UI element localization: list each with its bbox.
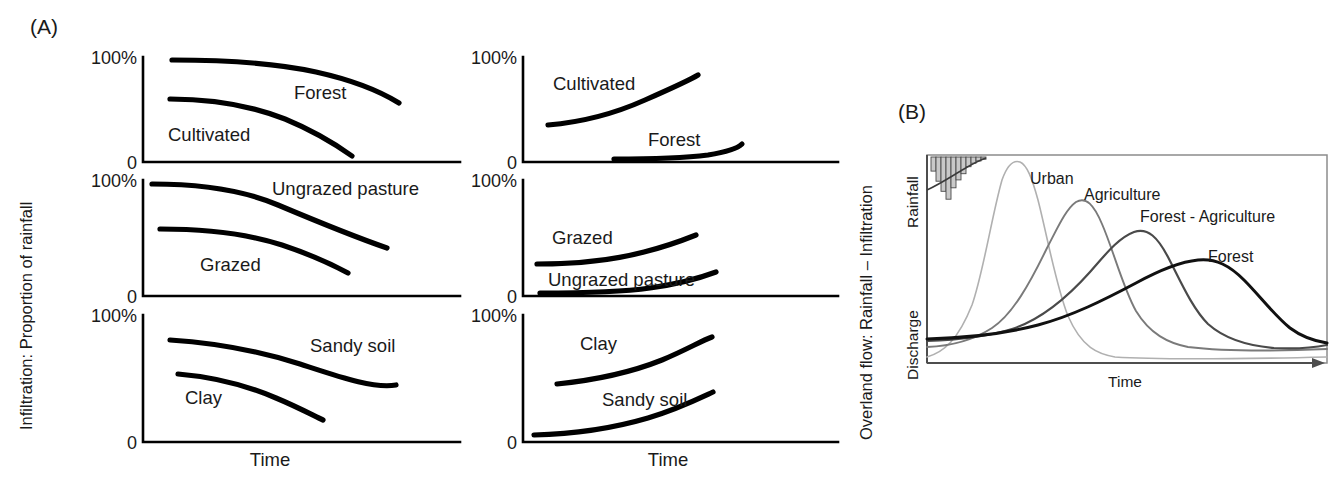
curve-label-cultivated: Cultivated bbox=[168, 124, 250, 145]
subplot-overland-grazed-pasture: 100% 0 Grazed Ungrazed pasture bbox=[471, 171, 838, 307]
curve-label-ungrazed-pasture: Ungrazed pasture bbox=[548, 269, 695, 290]
subplot-infiltration-forest-cultivated: 100% 0 Forest Cultivated bbox=[91, 48, 460, 173]
panel-b-letter: (B) bbox=[898, 100, 926, 123]
axes-spine bbox=[143, 315, 460, 442]
figure-root: (A) Infiltration: Proportion of rainfall… bbox=[0, 0, 1342, 490]
subplot-infiltration-sandy-clay: 100% 0 Sandy soil Clay Time bbox=[91, 306, 460, 470]
x-axis-arrow-icon bbox=[1312, 358, 1325, 368]
subplot-infiltration-pasture-grazed: 100% 0 Ungrazed pasture Grazed bbox=[91, 171, 460, 307]
ytick-bottom: 0 bbox=[507, 433, 517, 453]
curve-label-forest: Forest bbox=[648, 129, 700, 150]
panel-b-rainfall-label: Rainfall bbox=[904, 176, 921, 228]
curve-label-ungrazed-pasture: Ungrazed pasture bbox=[272, 178, 419, 199]
ytick-top: 100% bbox=[91, 171, 137, 191]
panel-a: (A) Infiltration: Proportion of rainfall… bbox=[17, 15, 875, 470]
xlabel-time: Time bbox=[648, 449, 688, 470]
ytick-bottom: 0 bbox=[127, 153, 137, 173]
ytick-bottom: 0 bbox=[127, 433, 137, 453]
panel-a-left-ylabel: Infiltration: Proportion of rainfall bbox=[17, 202, 35, 430]
curve-label-grazed: Grazed bbox=[552, 227, 613, 248]
curve-forest bbox=[172, 60, 399, 103]
curve-label-sandy-soil: Sandy soil bbox=[310, 335, 395, 356]
subplot-overland-forest-cultivated: 100% 0 Cultivated Forest bbox=[471, 48, 838, 173]
curve-label-clay: Clay bbox=[185, 387, 223, 408]
ytick-top: 100% bbox=[471, 171, 517, 191]
panel-b: (B) Rainfall Discharge bbox=[898, 100, 1327, 390]
ytick-top: 100% bbox=[91, 306, 137, 326]
panel-b-xlabel: Time bbox=[1108, 373, 1142, 390]
ytick-bottom: 0 bbox=[507, 287, 517, 307]
panel-a-right-ylabel: Overland flow: Rainfall – Infiltration bbox=[857, 185, 875, 440]
curve-label-cultivated: Cultivated bbox=[553, 73, 635, 94]
ytick-bottom: 0 bbox=[507, 153, 517, 173]
ytick-top: 100% bbox=[91, 48, 137, 68]
ytick-top: 100% bbox=[471, 306, 517, 326]
curve-label-forest: Forest bbox=[1208, 248, 1254, 265]
curve-label-sandy-soil: Sandy soil bbox=[602, 389, 687, 410]
curve-label-clay: Clay bbox=[580, 333, 618, 354]
axes-spine bbox=[523, 315, 838, 442]
axes-spine bbox=[143, 57, 460, 162]
ytick-top: 100% bbox=[471, 48, 517, 68]
panel-a-letter: (A) bbox=[30, 15, 58, 38]
subplot-overland-clay-sandy: 100% 0 Clay Sandy soil Time bbox=[471, 306, 838, 470]
curve-label-forest: Forest bbox=[294, 82, 346, 103]
hyetograph-inset bbox=[927, 157, 986, 199]
ytick-bottom: 0 bbox=[127, 287, 137, 307]
curve-label-forest-agriculture: Forest - Agriculture bbox=[1140, 208, 1275, 225]
xlabel-time: Time bbox=[250, 449, 290, 470]
curve-label-agriculture: Agriculture bbox=[1084, 186, 1161, 203]
curve-label-urban: Urban bbox=[1030, 170, 1074, 187]
curve-label-grazed: Grazed bbox=[200, 254, 261, 275]
panel-b-discharge-label: Discharge bbox=[904, 310, 921, 380]
